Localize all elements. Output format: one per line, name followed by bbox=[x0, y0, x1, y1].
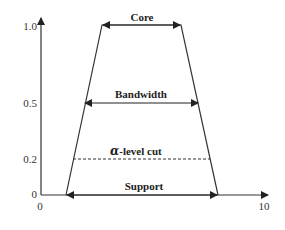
alpha-symbol: α bbox=[110, 144, 119, 158]
alpha-cut-label: α-level cut bbox=[110, 144, 162, 158]
x-tick-10: 10 bbox=[259, 200, 271, 212]
y-tick-0: 0 bbox=[32, 188, 38, 200]
membership-function-diagram: Core Bandwidth α-level cut Support 1.0 0… bbox=[0, 0, 285, 230]
core-label: Core bbox=[130, 11, 153, 23]
trapezoid-membership-curve bbox=[66, 25, 218, 195]
bandwidth-label: Bandwidth bbox=[115, 88, 167, 100]
alpha-cut-text: -level cut bbox=[119, 145, 162, 157]
y-tick-0.5: 0.5 bbox=[23, 97, 37, 109]
y-tick-1.0: 1.0 bbox=[23, 20, 37, 32]
x-tick-0: 0 bbox=[37, 200, 43, 212]
y-tick-0.2: 0.2 bbox=[23, 153, 37, 165]
support-label: Support bbox=[125, 180, 164, 192]
